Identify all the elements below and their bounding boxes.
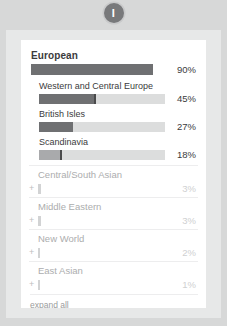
plus-icon[interactable]: + (29, 248, 38, 257)
percent-subregion: 45% (177, 93, 198, 104)
info-badge-icon[interactable]: I (104, 3, 124, 23)
bar-row-collapsed: + 3% (29, 214, 198, 227)
plus-icon[interactable]: + (29, 184, 38, 193)
subregion-scandinavia: Scandinavia 18% (39, 137, 198, 160)
group-title-collapsed: Central/South Asian (38, 169, 198, 180)
subregion-british-isles: British Isles 27% (39, 109, 198, 132)
group-title-collapsed: New World (38, 233, 198, 244)
percent-subregion: 27% (177, 121, 198, 132)
bar-row-collapsed: + 3% (29, 182, 198, 195)
badge-row: I (0, 0, 227, 26)
bar-fill-collapsed (38, 184, 41, 194)
percent-collapsed: 2% (182, 247, 198, 258)
subregion-title: Scandinavia (39, 137, 198, 147)
bar-fill-collapsed (38, 216, 41, 226)
bar-fill-collapsed (38, 280, 40, 290)
subregion-western-and-central-europe: Western and Central Europe 45% (39, 81, 198, 104)
subregion-title: Western and Central Europe (39, 81, 198, 91)
bar-fill-collapsed (38, 248, 40, 258)
bar-track-european (31, 64, 167, 75)
group-title-collapsed: East Asian (38, 265, 198, 276)
subregion-title: British Isles (39, 109, 198, 119)
bar-row-subregion: 27% (39, 121, 198, 132)
group-title-european: European (31, 50, 198, 61)
bar-fill-european (31, 64, 153, 75)
percent-collapsed: 3% (182, 183, 198, 194)
group-central-south-asian[interactable]: Central/South Asian + 3% (29, 165, 198, 195)
group-middle-eastern[interactable]: Middle Eastern + 3% (29, 197, 198, 227)
percent-subregion: 18% (177, 149, 198, 160)
bar-row-collapsed: + 1% (29, 278, 198, 291)
group-european: European 90% Western and Central Europe … (29, 50, 198, 160)
percent-collapsed: 1% (182, 279, 198, 290)
group-new-world[interactable]: New World + 2% (29, 229, 198, 259)
bar-row-subregion: 18% (39, 149, 198, 160)
bar-track-collapsed (38, 184, 164, 194)
group-title-collapsed: Middle Eastern (38, 201, 198, 212)
bar-track-subregion (39, 94, 165, 104)
bar-tick-subregion (60, 150, 62, 160)
bar-fill-subregion (39, 150, 62, 160)
badge-label: I (112, 8, 116, 19)
percent-european: 90% (177, 64, 198, 75)
bar-track-collapsed (38, 216, 164, 226)
bar-row-european: 90% (29, 64, 198, 75)
expand-all-link[interactable]: expand all (30, 294, 198, 308)
percent-collapsed: 3% (182, 215, 198, 226)
bar-fill-subregion (39, 122, 73, 132)
bar-track-subregion (39, 150, 165, 160)
plus-icon[interactable]: + (29, 216, 38, 225)
ethnicity-breakdown-card: European 90% Western and Central Europe … (21, 40, 206, 308)
group-east-asian[interactable]: East Asian + 1% (29, 261, 198, 291)
bar-track-collapsed (38, 280, 164, 290)
bar-tick-subregion (94, 94, 96, 104)
bar-row-subregion: 45% (39, 93, 198, 104)
bar-track-collapsed (38, 248, 164, 258)
bar-row-collapsed: + 2% (29, 246, 198, 259)
bar-track-subregion (39, 122, 165, 132)
plus-icon[interactable]: + (29, 280, 38, 289)
bar-fill-subregion (39, 94, 96, 104)
ethnicity-panel-frame: European 90% Western and Central Europe … (6, 30, 221, 318)
